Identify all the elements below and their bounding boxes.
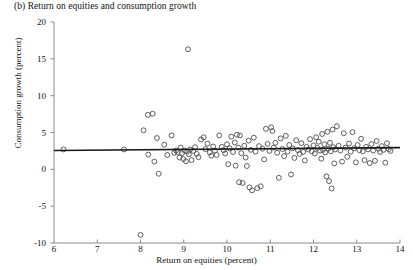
data-point [162,142,167,147]
data-point [299,141,304,146]
data-point [231,150,236,155]
data-point [330,127,335,132]
data-point [146,152,151,157]
scatter-plot-canvas [0,0,413,270]
data-point [325,129,330,134]
data-point [327,140,332,145]
data-point [282,154,287,159]
data-point [327,179,332,184]
data-point [334,124,339,129]
data-point [214,153,219,158]
data-point [240,181,245,186]
data-point [273,140,278,145]
data-point [275,150,280,155]
data-point [362,158,367,163]
data-point [294,138,299,143]
data-point [367,161,372,166]
data-point [345,154,350,159]
data-point [341,131,346,136]
data-point [278,136,283,141]
data-point [232,140,237,145]
data-point [226,162,231,167]
data-point [238,133,243,138]
data-point [385,141,390,146]
data-point [353,160,358,165]
figure-panel: (b) Return on equities and consumption g… [0,0,413,270]
data-point [322,142,327,147]
data-point [165,153,170,158]
data-point [244,164,249,169]
data-point [265,141,270,146]
data-point [319,156,324,161]
data-point [150,111,155,116]
data-point [251,135,256,140]
data-point [262,157,267,162]
data-point [229,134,234,139]
data-point [243,155,248,160]
data-point [292,155,297,160]
data-point [276,175,281,180]
data-point [233,163,238,168]
data-point [154,136,159,141]
data-point [374,139,379,144]
data-point [169,133,174,138]
data-point [217,133,222,138]
data-point [138,232,143,237]
data-point [350,130,355,135]
data-point [355,143,360,148]
data-point [285,149,290,154]
data-point [369,141,374,146]
data-point [253,149,258,154]
data-point [152,159,157,164]
data-point [302,158,307,163]
axis-spines [54,22,400,243]
data-point [383,160,388,165]
data-point [145,112,150,117]
data-point [186,47,191,52]
data-point [246,138,251,143]
data-point [320,132,325,137]
data-point [263,126,268,131]
data-point [141,128,146,133]
data-point [189,158,194,163]
data-point [324,174,329,179]
data-point [289,172,294,177]
data-point [347,141,352,146]
data-point [340,159,345,164]
data-point [332,161,337,166]
data-point [329,186,334,191]
data-point [156,171,161,176]
scatter-series [61,47,393,238]
data-point [371,148,376,153]
data-point [359,136,364,141]
data-point [316,139,321,144]
data-point [372,158,377,163]
data-point [308,137,313,142]
data-point [257,144,262,149]
data-point [242,143,247,148]
data-point [205,141,210,146]
data-point [239,151,244,156]
data-point [283,133,288,138]
